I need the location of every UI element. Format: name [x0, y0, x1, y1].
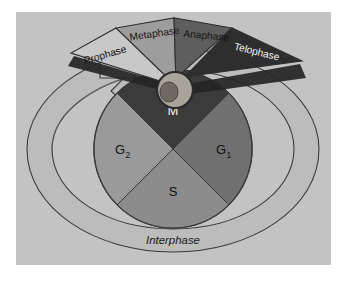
quadrant-label-s: S	[169, 184, 178, 199]
diagram-panel: Interphase M G 1	[16, 12, 331, 265]
quadrant-label-g1-sub: 1	[227, 150, 232, 160]
figure-root: Interphase M G 1	[0, 0, 347, 282]
cell-nucleus	[160, 82, 178, 102]
dividing-cell	[157, 72, 193, 108]
cell-cycle-diagram: Interphase M G 1	[16, 12, 331, 265]
quadrant-label-g1: G	[216, 142, 226, 157]
interphase-label: Interphase	[146, 234, 200, 246]
quadrant-label-g2: G	[115, 142, 125, 157]
quadrant-label-g2-sub: 2	[126, 150, 131, 160]
